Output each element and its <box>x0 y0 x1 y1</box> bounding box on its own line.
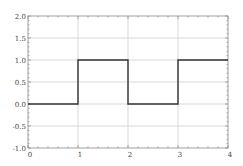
x-tick-label: 1 <box>78 151 82 159</box>
y-tick-label: -0.5 <box>13 123 27 131</box>
y-tick-label: -1.0 <box>13 145 27 153</box>
y-tick-label: 0.0 <box>15 101 26 109</box>
y-tick-label: 0.5 <box>15 79 26 87</box>
x-axis-tick-labels: 01234 <box>28 151 233 159</box>
x-tick-label: 3 <box>178 151 182 159</box>
y-tick-label: 1.5 <box>15 35 26 43</box>
y-tick-label: 2.0 <box>15 13 26 21</box>
x-tick-label: 2 <box>128 151 132 159</box>
y-axis-tick-labels: -1.0-0.50.00.51.01.52.0 <box>13 13 27 153</box>
y-tick-label: 1.0 <box>15 57 26 65</box>
x-tick-label: 0 <box>28 151 32 159</box>
step-chart: 01234 -1.0-0.50.00.51.01.52.0 <box>0 0 243 166</box>
x-tick-label: 4 <box>228 151 233 159</box>
